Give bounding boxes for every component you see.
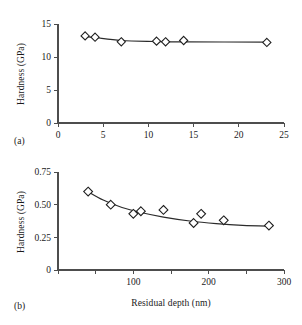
trend-line xyxy=(85,37,267,43)
data-point-marker xyxy=(81,32,89,40)
data-point-marker xyxy=(265,221,274,230)
x-tick-label: 200 xyxy=(202,277,217,287)
x-tick-label: 300 xyxy=(277,277,292,287)
y-tick-label: 0 xyxy=(46,265,51,275)
data-point-marker xyxy=(159,205,168,214)
y-tick-label: 5 xyxy=(46,85,51,95)
x-tick-label: 25 xyxy=(279,130,289,140)
y-axis-title: Hardness (GPa) xyxy=(16,43,27,105)
x-tick-label: 15 xyxy=(189,130,199,140)
y-tick-label: 0 xyxy=(46,118,51,128)
data-point-marker xyxy=(91,33,99,41)
data-point-marker xyxy=(161,38,169,46)
chart-a-svg: 0510150510152025Hardness (GPa) xyxy=(0,0,302,160)
x-tick-label: 0 xyxy=(56,130,61,140)
y-tick-label: 0.75 xyxy=(34,167,51,177)
x-tick-label: 20 xyxy=(234,130,244,140)
chart-panel-a: 0510150510152025Hardness (GPa) (a) xyxy=(0,0,302,160)
panel-a-label: (a) xyxy=(14,136,25,146)
panel-b-label: (b) xyxy=(14,301,25,311)
x-tick-label: 5 xyxy=(101,130,106,140)
y-tick-label: 15 xyxy=(42,19,52,29)
y-tick-label: 0.25 xyxy=(34,233,51,243)
y-axis-title: Hardness (GPa) xyxy=(16,191,27,253)
chart-panel-b: 00.250.500.75100200300Hardness (GPa)Resi… xyxy=(0,160,302,325)
figure-container: 0510150510152025Hardness (GPa) (a) 00.25… xyxy=(0,0,302,325)
data-point-marker xyxy=(117,38,125,46)
y-tick-label: 0.50 xyxy=(34,200,51,210)
data-point-marker xyxy=(84,187,93,196)
y-tick-label: 10 xyxy=(42,52,52,62)
data-point-marker xyxy=(152,37,160,45)
x-tick-label: 10 xyxy=(144,130,154,140)
data-point-marker xyxy=(189,219,198,228)
x-axis-title: Residual depth (nm) xyxy=(131,298,210,309)
chart-b-svg: 00.250.500.75100200300Hardness (GPa)Resi… xyxy=(0,160,302,325)
data-point-marker xyxy=(263,38,271,46)
trend-line xyxy=(87,191,273,226)
data-point-marker xyxy=(180,36,188,44)
data-point-marker xyxy=(197,209,206,218)
x-tick-label: 100 xyxy=(126,277,141,287)
